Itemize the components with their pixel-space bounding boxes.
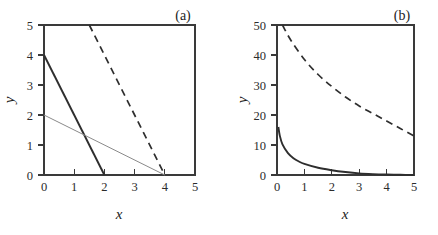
panel-a-y-ticks	[38, 25, 44, 175]
panel-a-xtick-5: 5	[192, 180, 198, 194]
panel-a-xtick-2: 2	[101, 180, 107, 194]
panel-a: (a)	[1, 8, 198, 222]
panel-b-x-ticklabels: 0 1 2 3 4 5	[274, 180, 417, 194]
panel-a-ytick-1: 1	[27, 139, 33, 153]
panel-a-y-ticklabels: 0 1 2 3 4 5	[27, 19, 34, 183]
panel-b-y-ticks	[271, 25, 277, 175]
panel-b-ytick-10: 10	[254, 139, 267, 153]
panel-a-ytick-3: 3	[27, 79, 33, 93]
panel-b-xtick-4: 4	[383, 180, 390, 194]
panel-b-xtick-3: 3	[356, 180, 362, 194]
panel-b-ytick-0: 0	[260, 169, 266, 183]
panel-b-ytick-20: 20	[254, 109, 267, 123]
panel-b-xlabel: x	[341, 206, 349, 222]
panel-b-ytick-50: 50	[254, 19, 267, 33]
panel-a-ytick-5: 5	[27, 19, 33, 33]
panel-b-ytick-30: 30	[254, 79, 267, 93]
panel-b-xtick-5: 5	[411, 180, 417, 194]
panel-a-xtick-1: 1	[71, 180, 77, 194]
panel-b-solid-decay-curve	[278, 127, 414, 175]
panel-a-label: (a)	[175, 8, 191, 24]
panel-a-x-ticks	[44, 169, 195, 175]
panel-b-frame	[277, 25, 414, 175]
panel-a-ytick-0: 0	[27, 169, 33, 183]
panel-b: (b)	[234, 8, 417, 222]
panel-b-xtick-1: 1	[301, 180, 307, 194]
panel-b-xtick-0: 0	[274, 180, 280, 194]
panel-a-xtick-3: 3	[131, 180, 137, 194]
panel-b-ytick-40: 40	[254, 49, 267, 63]
panel-a-x-ticklabels: 0 1 2 3 4 5	[41, 180, 198, 194]
panel-b-ylabel: y	[234, 96, 250, 105]
panel-b-label: (b)	[394, 8, 411, 24]
panel-a-ytick-4: 4	[27, 49, 34, 63]
panel-a-xlabel: x	[115, 206, 123, 222]
panel-a-ylabel: y	[1, 96, 17, 105]
panel-a-dashed-line	[89, 25, 165, 175]
panel-a-xtick-4: 4	[162, 180, 169, 194]
panel-b-dashed-decay-curve	[282, 25, 414, 136]
panel-a-xtick-0: 0	[41, 180, 47, 194]
panel-a-ytick-2: 2	[27, 109, 33, 123]
figure-container: (a)	[0, 0, 438, 235]
two-panel-figure: (a)	[0, 0, 438, 235]
panel-a-shallow-solid-line	[44, 115, 165, 175]
panel-b-xtick-2: 2	[329, 180, 335, 194]
panel-a-steep-solid-line	[44, 55, 104, 175]
panel-b-y-ticklabels: 0 10 20 30 40 50	[254, 19, 267, 183]
